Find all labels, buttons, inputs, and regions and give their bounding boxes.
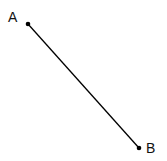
point-a-dot [26,22,31,27]
segment-diagram [0,0,167,161]
point-b-dot [137,146,142,151]
point-a-label: A [8,10,17,24]
point-b-label: B [146,141,155,155]
segment-ab [28,24,139,148]
